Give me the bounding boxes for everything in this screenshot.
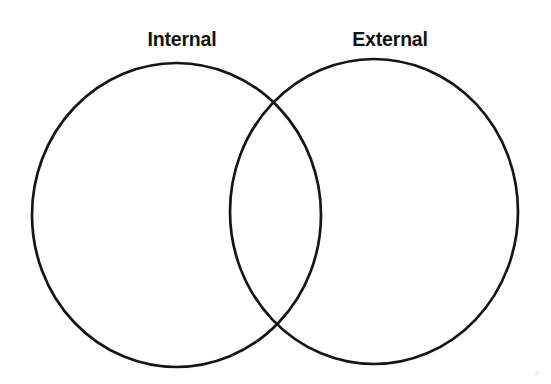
venn-diagram-graphic: [0, 0, 551, 384]
venn-label-internal: Internal: [108, 28, 257, 49]
venn-label-external: External: [316, 28, 465, 49]
scan-artifact-speck: [534, 371, 539, 376]
venn-diagram-canvas: Internal External: [0, 0, 551, 384]
